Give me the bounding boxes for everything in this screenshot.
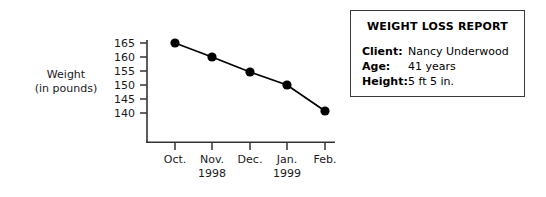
report-row-age: Age: 41 years <box>362 59 524 74</box>
report-row-height: Height: 5 ft 5 in. <box>362 74 524 89</box>
data-point-feb <box>320 106 329 115</box>
report-title: WEIGHT LOSS REPORT <box>351 20 524 33</box>
y-tick-label-150: 150 <box>105 80 135 91</box>
data-point-oct <box>170 38 179 47</box>
report-value-height: 5 ft 5 in. <box>408 74 454 89</box>
y-tick-label-165: 165 <box>105 38 135 49</box>
weight-loss-figure: Weight (in pounds) <box>0 0 546 197</box>
report-row-client: Client: Nancy Underwood <box>362 44 524 59</box>
x-tick-label-feb: Feb. <box>303 153 347 166</box>
weight-loss-report-box: WEIGHT LOSS REPORT Client: Nancy Underwo… <box>350 10 525 97</box>
x-tick-sublabel-1999: 1999 <box>265 167 309 180</box>
data-point-jan <box>282 80 291 89</box>
x-tick-marks <box>175 143 325 150</box>
data-point-dec <box>245 67 254 76</box>
y-tick-marks <box>140 43 147 113</box>
report-label-age: Age: <box>362 59 408 74</box>
report-rows: Client: Nancy Underwood Age: 41 years He… <box>351 44 524 89</box>
y-tick-label-140: 140 <box>105 108 135 119</box>
report-label-height: Height: <box>362 74 408 89</box>
data-point-nov <box>207 52 216 61</box>
report-value-client: Nancy Underwood <box>408 44 509 59</box>
y-tick-label-160: 160 <box>105 52 135 63</box>
y-tick-label-155: 155 <box>105 66 135 77</box>
data-series-line <box>175 43 325 111</box>
report-value-age: 41 years <box>408 59 456 74</box>
x-tick-sublabel-1998: 1998 <box>190 167 234 180</box>
report-label-client: Client: <box>362 44 408 59</box>
y-tick-label-145: 145 <box>105 94 135 105</box>
